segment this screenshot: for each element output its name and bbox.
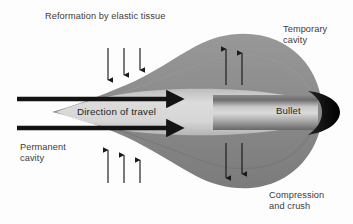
label-direction-of-travel: Direction of travel xyxy=(77,106,156,117)
label-compression-line1: Compression xyxy=(269,190,324,200)
label-compression-and-crush: Compressionand crush xyxy=(269,190,324,211)
label-compression-line2: and crush xyxy=(269,201,310,211)
label-permanent-cavity-line2: cavity xyxy=(20,153,44,163)
label-bullet: Bullet xyxy=(276,105,301,116)
bullet-body xyxy=(213,95,318,130)
label-permanent-cavity: Permanentcavity xyxy=(20,142,66,163)
ballistics-diagram: Reformation by elastic tissue Temporaryc… xyxy=(0,0,353,224)
label-temporary-cavity-line1: Temporary xyxy=(283,24,327,34)
label-temporary-cavity: Temporarycavity xyxy=(283,24,327,45)
label-permanent-cavity-line1: Permanent xyxy=(20,142,66,152)
reformation-arrows-bottom xyxy=(108,150,140,183)
label-reformation-by-elastic-tissue: Reformation by elastic tissue xyxy=(45,11,165,22)
reformation-arrows-top xyxy=(108,48,140,80)
label-temporary-cavity-line2: cavity xyxy=(283,35,307,45)
